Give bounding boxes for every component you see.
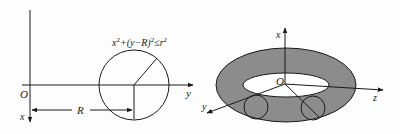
diagram-canvas: O x y R x2+(y−R)2≤r2 O [0, 0, 400, 134]
y-axis-label: y [185, 87, 191, 99]
y-axis-label-3d: y [201, 101, 207, 112]
region-formula: x2+(y−R)2≤r2 [111, 36, 168, 49]
x-axis-label: x [19, 111, 25, 122]
right-figure: O x y z [201, 28, 383, 122]
distance-label: R [76, 104, 84, 116]
radius-line [134, 58, 157, 85]
origin-label: O [20, 88, 28, 100]
x-axis-label-3d: x [275, 29, 281, 40]
origin-label-3d: O [276, 75, 284, 87]
z-axis-label-3d: z [372, 92, 377, 103]
left-figure: O x y R x2+(y−R)2≤r2 [19, 10, 193, 122]
diagram-svg: O x y R x2+(y−R)2≤r2 O [0, 0, 400, 134]
